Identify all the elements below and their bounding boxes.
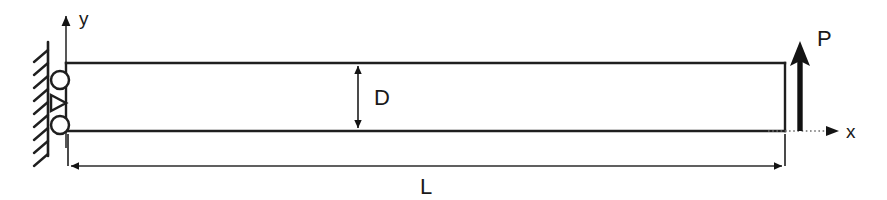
roller-support-upper [51, 71, 69, 89]
point-load: P [790, 26, 832, 131]
hatch-mark [34, 76, 48, 88]
x-axis-arrowhead [826, 126, 839, 136]
fixed-support-wall [34, 42, 48, 166]
support-symbols [51, 71, 69, 134]
hatch-mark [34, 63, 48, 75]
x-axis: x [768, 121, 856, 142]
x-axis-label: x [846, 121, 856, 142]
length-dimension-label: L [420, 174, 432, 199]
hatch-mark [34, 102, 48, 114]
pin-support-triangle [51, 95, 66, 111]
hatch-mark [34, 89, 48, 101]
hatch-mark [34, 50, 48, 62]
beam-diagram: D L x P y [0, 0, 887, 200]
point-load-label: P [817, 26, 832, 51]
depth-dimension: D [358, 66, 390, 128]
hatch-mark [34, 141, 48, 153]
length-dimension: L [68, 134, 785, 199]
diagram-canvas: D L x P y [0, 0, 887, 200]
hatch-mark [34, 128, 48, 140]
hatch-mark [34, 154, 48, 166]
beam-outline [66, 63, 785, 131]
roller-support-lower [51, 116, 69, 134]
depth-dimension-label: D [374, 85, 390, 110]
hatch-mark [34, 115, 48, 127]
y-axis-label: y [79, 8, 89, 29]
wall-hatch-group [34, 50, 48, 166]
